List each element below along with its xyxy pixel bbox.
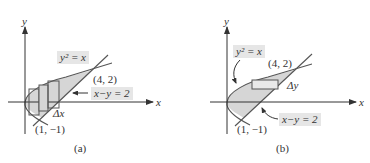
point-upper-label-a: (4, 2) <box>93 74 117 85</box>
strip-b <box>252 80 278 89</box>
point-upper-label-b: (4, 2) <box>268 58 292 69</box>
y-axis-label-a: y <box>22 16 27 27</box>
panel-a <box>8 27 153 134</box>
strip-width-label-b: Δy <box>287 80 298 91</box>
x-axis-label-b: x <box>359 97 364 108</box>
curve-label-arrow-b <box>234 60 240 83</box>
caption-a: (a) <box>74 143 86 154</box>
y-axis-label-b: y <box>224 16 229 27</box>
shaded-region-b <box>227 70 295 118</box>
strip-a-2 <box>39 85 48 111</box>
figure-graphics <box>0 0 370 163</box>
curve-label-b: y² = x <box>233 45 265 58</box>
point-lower-label-a: (1, −1) <box>35 124 65 135</box>
line-label-b: x−y = 2 <box>279 113 321 126</box>
line-label-a: x−y = 2 <box>91 87 133 100</box>
area-between-curves-figure: y x y² = x (4, 2) x−y = 2 Δx (1, −1) (a)… <box>0 0 370 163</box>
caption-b: (b) <box>276 143 289 154</box>
x-axis-label-a: x <box>156 97 161 108</box>
line-label-arrow-b <box>262 108 278 119</box>
strip-width-label-a: Δx <box>53 108 64 119</box>
point-lower-label-b: (1, −1) <box>237 124 267 135</box>
curve-label-a: y² = x <box>57 51 89 64</box>
